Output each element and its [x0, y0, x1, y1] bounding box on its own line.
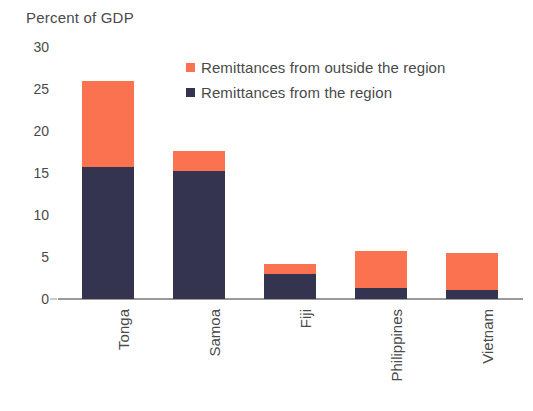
x-axis-category-label: Philippines: [388, 309, 405, 382]
bar-segment-outside-region[interactable]: [82, 81, 134, 167]
bar-segment-within-region[interactable]: [446, 290, 498, 299]
chart-legend: Remittances from outside the region Remi…: [186, 58, 445, 102]
y-axis-tick-label: 5: [41, 249, 49, 265]
bar-segment-fill: [446, 290, 498, 299]
bar-segment-fill: [264, 274, 316, 299]
bar-segment-fill: [446, 253, 498, 290]
y-axis-tick-label: 10: [33, 207, 49, 223]
remittances-bar-chart: Percent of GDP 302520151050 TongaSamoaFi…: [0, 0, 533, 411]
bar-segment-outside-region[interactable]: [264, 264, 316, 274]
legend-label-within-region: Remittances from the region: [201, 84, 392, 101]
legend-label-outside-region: Remittances from outside the region: [201, 59, 445, 76]
x-axis-category-label: Fiji: [297, 309, 314, 328]
bar-segment-outside-region[interactable]: [355, 251, 407, 288]
bar-segment-within-region[interactable]: [82, 167, 134, 299]
bar-segment-fill: [82, 81, 134, 167]
x-axis-category-labels: TongaSamoaFijiPhilippinesVietnam: [62, 305, 517, 411]
bar-segment-within-region[interactable]: [173, 171, 225, 299]
legend-item-outside-region: Remittances from outside the region: [186, 58, 445, 77]
x-axis-category-label: Vietnam: [479, 309, 496, 364]
bar-segment-within-region[interactable]: [355, 288, 407, 299]
legend-item-within-region: Remittances from the region: [186, 83, 445, 102]
bar-segment-fill: [355, 288, 407, 299]
bar-segment-fill: [173, 171, 225, 299]
bar-segment-within-region[interactable]: [264, 274, 316, 299]
y-axis-tick-label: 30: [33, 39, 49, 55]
bar-segment-fill: [82, 167, 134, 299]
bar-segment-outside-region[interactable]: [446, 253, 498, 290]
x-axis-category-label: Samoa: [206, 309, 223, 357]
y-axis: 302520151050: [0, 0, 62, 299]
y-axis-tick-label: 20: [33, 123, 49, 139]
bar-segment-outside-region[interactable]: [173, 151, 225, 171]
x-axis-category-label: Tonga: [115, 309, 132, 350]
y-axis-tick-label: 15: [33, 165, 49, 181]
y-axis-tick-label: 0: [41, 291, 49, 307]
legend-swatch-outside-region-icon: [186, 63, 195, 72]
bar-segment-fill: [264, 264, 316, 274]
bar-segment-fill: [355, 251, 407, 288]
bar-segment-fill: [173, 151, 225, 171]
y-axis-tick-label: 25: [33, 81, 49, 97]
y-axis-tick-mark: [50, 299, 57, 300]
legend-swatch-within-region-icon: [186, 88, 195, 97]
